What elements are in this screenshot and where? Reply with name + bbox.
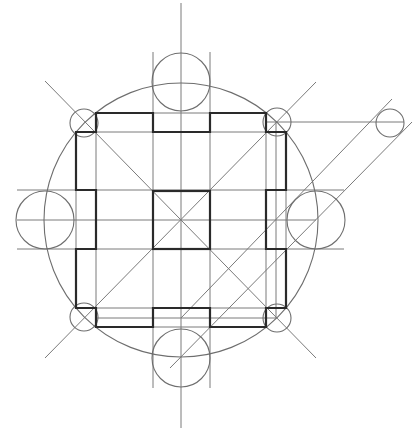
diagonal-lines — [45, 81, 412, 368]
corner-circle-outer-right — [376, 109, 404, 137]
axis-lines — [17, 3, 316, 428]
geometric-construction-diagram — [0, 0, 418, 437]
